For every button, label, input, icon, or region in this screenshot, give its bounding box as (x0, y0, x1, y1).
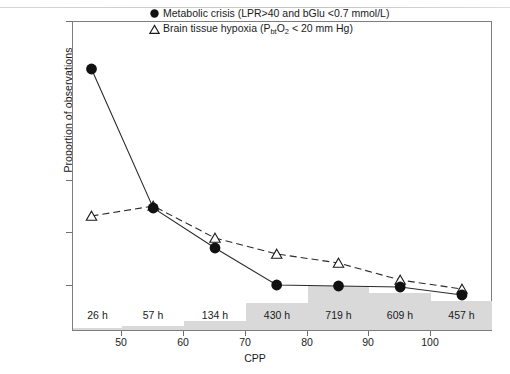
x-tick-label-80: 80 (287, 336, 327, 348)
legend-label-bth-post: < 20 mm Hg) (289, 22, 353, 34)
x-tick-label-90: 90 (348, 336, 388, 348)
hour-bar-134 (184, 321, 246, 330)
series-metabolic-crisis-line (92, 69, 463, 295)
legend-item-brain-tissue-hypoxia: Brain tissue hypoxia (PbtO2 < 20 mm Hg) (146, 21, 389, 39)
hour-bar-label-26: 26 h (73, 309, 122, 321)
x-tick-label-50: 50 (101, 336, 141, 348)
hour-bar-label-430: 430 h (246, 309, 308, 321)
open-triangle-icon (146, 23, 163, 36)
x-axis-title: CPP (0, 352, 510, 364)
hour-bar-719 (308, 286, 369, 330)
series-layer (73, 22, 493, 332)
hour-bar-label-134: 134 h (184, 309, 246, 321)
legend-label-metabolic-crisis: Metabolic crisis (LPR>40 and bGlu <0.7 m… (163, 6, 389, 21)
hour-bar-label-57: 57 h (122, 309, 184, 321)
series-brain-tissue-hypoxia-markers (86, 201, 467, 293)
x-tick-label-100: 100 (410, 336, 450, 348)
hour-bar-label-719: 719 h (308, 309, 369, 321)
legend-label-bth-mid: O (277, 22, 285, 34)
legend-label-bth-pre: Brain tissue hypoxia (P (163, 22, 270, 34)
hour-bar-label-609: 609 h (369, 309, 431, 321)
hour-bar-57 (122, 326, 184, 330)
chart-legend: Metabolic crisis (LPR>40 and bGlu <0.7 m… (146, 6, 389, 39)
chart-figure: Proportion of observations 1.0 0.8 0.6 0… (0, 0, 510, 374)
x-tick-label-70: 70 (225, 336, 265, 348)
legend-item-metabolic-crisis: Metabolic crisis (LPR>40 and bGlu <0.7 m… (146, 6, 389, 21)
filled-circle-icon (146, 7, 163, 20)
series-brain-tissue-hypoxia-line (92, 206, 463, 289)
hour-bar-label-457: 457 h (431, 309, 492, 321)
hour-bar-26 (73, 328, 122, 330)
series-metabolic-crisis-markers (86, 64, 467, 301)
x-tick-label-60: 60 (163, 336, 203, 348)
plot-area: 26 h 57 h 134 h 430 h 719 h 609 h 457 h (72, 21, 492, 331)
legend-label-brain-tissue-hypoxia: Brain tissue hypoxia (PbtO2 < 20 mm Hg) (163, 21, 353, 39)
